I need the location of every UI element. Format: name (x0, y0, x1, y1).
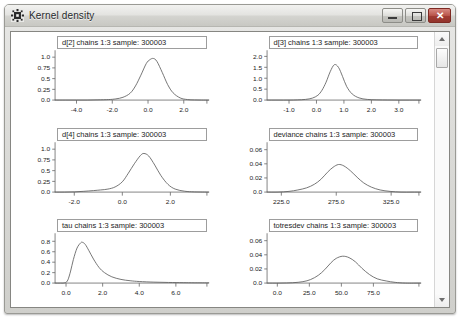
xtick-deviance-0: 225.0 (273, 198, 290, 205)
plot-panel-deviance: deviance chains 1:3 sample: 3000030.00.0… (223, 124, 435, 216)
scrollbar-thumb[interactable] (436, 48, 448, 68)
xtick-d2-1: -2.0 (107, 106, 119, 113)
ytick-d4-0: 0.0 (41, 188, 51, 195)
density-curve-d3 (267, 64, 421, 100)
xtick-totresdev-0: 0.0 (272, 289, 282, 296)
plot-title-deviance: deviance chains 1:3 sample: 300003 (274, 130, 396, 139)
ytick-tau-1: 0.2 (41, 269, 51, 276)
ytick-d2-4: 1.0 (41, 54, 51, 61)
xtick-d3-2: 1.0 (339, 106, 349, 113)
plot-inner-d3: d[3] chains 1:3 sample: 3000030.00.51.01… (231, 36, 427, 120)
xtick-d2-2: 0.0 (143, 106, 153, 113)
plot-title-box-totresdev: totresdev chains 1:3 sample: 300003 (269, 219, 419, 232)
xtick-d4-1: 0.0 (118, 198, 128, 205)
ytick-d3-0: 0.0 (253, 97, 263, 104)
ytick-d2-2: 0.5 (41, 75, 51, 82)
scroll-down-button[interactable] (435, 293, 449, 307)
ytick-deviance-1: 0.02 (249, 174, 262, 181)
xtick-totresdev-2: 50.0 (334, 289, 347, 296)
restore-icon (412, 12, 422, 21)
ytick-d4-2: 0.5 (41, 167, 51, 174)
plot-title-d3: d[3] chains 1:3 sample: 300003 (274, 38, 378, 47)
plot-grid: d[2] chains 1:3 sample: 3000030.00.250.5… (11, 32, 434, 307)
xtick-deviance-2: 325.0 (382, 198, 399, 205)
ytick-d2-0: 0.0 (41, 97, 51, 104)
minimize-button[interactable] (382, 8, 403, 23)
xtick-tau-1: 2.0 (98, 289, 108, 296)
scroll-up-arrow-icon (439, 37, 445, 41)
plot-title-totresdev: totresdev chains 1:3 sample: 300003 (274, 221, 397, 230)
window-client-area: d[2] chains 1:3 sample: 3000030.00.250.5… (10, 31, 450, 308)
xtick-totresdev-1: 25.0 (302, 289, 315, 296)
scrollbar-track[interactable] (435, 46, 449, 293)
xtick-d2-0: -4.0 (71, 106, 83, 113)
density-curve-d2 (55, 58, 209, 100)
plot-inner-d4: d[4] chains 1:3 sample: 3000030.00.250.5… (19, 128, 215, 212)
plot-title-box-tau: tau chains 1:3 sample: 300003 (57, 219, 207, 232)
xtick-totresdev-3: 75.0 (366, 289, 379, 296)
app-icon (11, 9, 24, 22)
xtick-d3-0: -1.0 (283, 106, 295, 113)
plot-panel-totresdev: totresdev chains 1:3 sample: 3000030.00.… (223, 215, 435, 307)
window-title: Kernel density (29, 10, 94, 21)
ytick-d2-3: 0.75 (37, 64, 50, 71)
window-title-bar[interactable]: Kernel density ✕ (5, 5, 455, 27)
xtick-d4-2: 2.0 (166, 198, 176, 205)
xtick-deviance-1: 275.0 (327, 198, 344, 205)
ytick-d3-2: 1.0 (253, 75, 263, 82)
xtick-tau-2: 4.0 (135, 289, 145, 296)
ytick-tau-4: 0.8 (41, 238, 51, 245)
plot-title-box-deviance: deviance chains 1:3 sample: 300003 (269, 128, 419, 141)
ytick-d3-1: 0.5 (253, 86, 263, 93)
plot-title-box-d4: d[4] chains 1:3 sample: 300003 (57, 128, 207, 141)
ytick-totresdev-2: 0.04 (249, 252, 262, 259)
density-curve-totresdev (267, 257, 421, 284)
plot-title-box-d3: d[3] chains 1:3 sample: 300003 (269, 36, 419, 49)
xtick-d3-4: 3.0 (394, 106, 404, 113)
density-curve-deviance (267, 164, 421, 192)
scroll-up-button[interactable] (435, 32, 449, 46)
ytick-d3-4: 2.0 (253, 53, 263, 60)
plot-inner-d2: d[2] chains 1:3 sample: 3000030.00.250.5… (19, 36, 215, 120)
plot-panel-d4: d[4] chains 1:3 sample: 3000030.00.250.5… (11, 124, 223, 216)
window-controls: ✕ (382, 8, 451, 23)
ytick-totresdev-0: 0.0 (253, 280, 263, 287)
vertical-scrollbar[interactable] (434, 32, 449, 307)
xtick-d3-1: 0.0 (311, 106, 321, 113)
ytick-d4-1: 0.25 (37, 178, 50, 185)
plot-title-tau: tau chains 1:3 sample: 300003 (62, 221, 164, 230)
density-curve-d4 (55, 153, 209, 192)
plot-canvas: d[2] chains 1:3 sample: 3000030.00.250.5… (11, 32, 434, 307)
xtick-tau-0: 0.0 (61, 289, 71, 296)
xtick-d3-3: 2.0 (366, 106, 376, 113)
ytick-tau-0: 0.0 (41, 280, 51, 287)
plot-inner-totresdev: totresdev chains 1:3 sample: 3000030.00.… (231, 219, 427, 303)
scroll-down-arrow-icon (439, 298, 445, 302)
close-icon: ✕ (429, 9, 450, 22)
kernel-density-window: Kernel density ✕ d[2] chains 1:3 sample:… (4, 4, 456, 314)
plot-panel-d2: d[2] chains 1:3 sample: 3000030.00.250.5… (11, 32, 223, 124)
restore-button[interactable] (405, 8, 426, 23)
ytick-d3-3: 1.5 (253, 64, 263, 71)
density-curve-tau (55, 242, 209, 283)
plot-inner-tau: tau chains 1:3 sample: 3000030.00.20.40.… (19, 219, 215, 303)
xtick-tau-3: 6.0 (171, 289, 181, 296)
plot-inner-deviance: deviance chains 1:3 sample: 3000030.00.0… (231, 128, 427, 212)
plot-title-d4: d[4] chains 1:3 sample: 300003 (62, 130, 166, 139)
ytick-deviance-3: 0.06 (249, 146, 262, 153)
ytick-totresdev-1: 0.02 (249, 266, 262, 273)
ytick-deviance-2: 0.04 (249, 160, 262, 167)
close-button[interactable]: ✕ (428, 8, 451, 23)
plot-panel-d3: d[3] chains 1:3 sample: 3000030.00.51.01… (223, 32, 435, 124)
ytick-d2-1: 0.25 (37, 86, 50, 93)
xtick-d2-3: 2.0 (179, 106, 189, 113)
ytick-totresdev-3: 0.06 (249, 238, 262, 245)
ytick-tau-3: 0.6 (41, 249, 51, 256)
ytick-tau-2: 0.4 (41, 259, 51, 266)
plot-title-box-d2: d[2] chains 1:3 sample: 300003 (57, 36, 207, 49)
ytick-deviance-0: 0.0 (253, 188, 263, 195)
plot-title-d2: d[2] chains 1:3 sample: 300003 (62, 38, 166, 47)
xtick-d4-0: -2.0 (69, 198, 81, 205)
minimize-icon (388, 17, 397, 19)
ytick-d4-3: 0.75 (37, 156, 50, 163)
